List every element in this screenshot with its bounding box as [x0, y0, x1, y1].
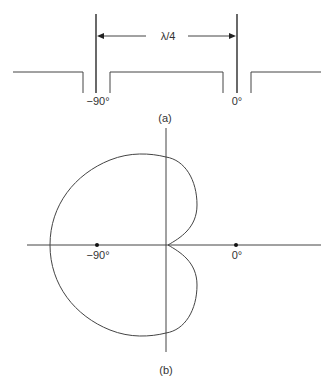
arrowhead-left-icon — [97, 33, 104, 39]
ground-segment-left — [13, 72, 83, 93]
spacing-label: λ/4 — [161, 31, 176, 42]
element-left-label: −90° — [86, 96, 109, 107]
point-minus-90 — [95, 243, 99, 247]
point-0-label: 0° — [232, 250, 243, 261]
ground-segment-middle — [110, 72, 223, 93]
caption-a: (a) — [158, 113, 171, 124]
diagram-canvas — [0, 0, 333, 390]
arrowhead-right-icon — [229, 33, 236, 39]
element-right-label: 0° — [232, 96, 243, 107]
point-minus-90-label: −90° — [86, 250, 109, 261]
ground-segment-right — [251, 72, 321, 93]
point-0 — [234, 243, 238, 247]
figure-b — [27, 128, 321, 352]
caption-b: (b) — [159, 365, 172, 376]
figure-a — [13, 14, 321, 93]
